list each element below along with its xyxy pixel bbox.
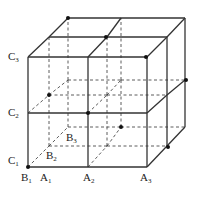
label-a3: A3 bbox=[140, 172, 151, 185]
label-b2: B2 bbox=[46, 150, 57, 163]
label-c1: C1 bbox=[8, 155, 19, 168]
hidden-edge bbox=[107, 80, 121, 95]
visible-edge bbox=[49, 18, 68, 37]
hidden-edge bbox=[88, 146, 107, 167]
label-a2: A2 bbox=[83, 172, 94, 185]
hidden-edge bbox=[28, 95, 49, 113]
visible-edge bbox=[147, 146, 167, 167]
vertex-dot bbox=[166, 145, 170, 149]
visible-edge bbox=[167, 18, 185, 37]
vertex-dot bbox=[26, 165, 30, 169]
label-b1: B1 bbox=[21, 172, 32, 185]
label-c2: C2 bbox=[8, 107, 19, 120]
visible-edge bbox=[28, 37, 49, 57]
vertex-dot bbox=[47, 93, 51, 97]
vertex-dot bbox=[184, 78, 188, 82]
hidden-edge bbox=[88, 95, 107, 113]
label-b3: B3 bbox=[66, 132, 77, 145]
visible-edge bbox=[88, 37, 107, 57]
hidden-edge bbox=[49, 80, 68, 95]
label-a1: A1 bbox=[40, 172, 51, 185]
hidden-edge bbox=[107, 127, 121, 146]
cube-grid-drawing bbox=[0, 0, 200, 197]
vertex-dot bbox=[144, 55, 148, 59]
vertex-dot bbox=[119, 125, 123, 129]
label-c3: C3 bbox=[8, 51, 19, 64]
visible-edge bbox=[147, 37, 167, 57]
visible-edge bbox=[167, 80, 185, 95]
visible-edge bbox=[147, 95, 167, 113]
cube-grid-diagram: C3C2C1B1B2B3A1A2A3 bbox=[0, 0, 200, 197]
vertex-dot bbox=[86, 111, 90, 115]
vertex-dot bbox=[66, 16, 70, 20]
vertex-dot bbox=[104, 35, 108, 39]
visible-edge bbox=[107, 18, 121, 37]
visible-edge bbox=[167, 127, 185, 146]
